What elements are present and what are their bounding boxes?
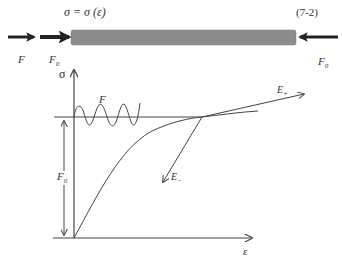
- oscillation-wave: [74, 103, 140, 126]
- stress-strain-curve: [74, 111, 258, 238]
- preload-label-f0: F0: [57, 171, 67, 185]
- constitutive-equation: σ = σ (ε): [64, 6, 106, 18]
- y-axis-label-sigma: σ: [59, 68, 65, 80]
- force-label-f0-right: F0: [318, 56, 328, 70]
- tangent-e-minus-arrow: [163, 117, 202, 182]
- tangent-label-e-minus: E−: [171, 172, 182, 185]
- rod-bar: [71, 30, 296, 45]
- equation-number: (7-2): [296, 7, 318, 18]
- force-label-f: F: [18, 54, 25, 65]
- tangent-label-e-plus: E+: [277, 85, 288, 98]
- oscillation-label-f: F: [99, 94, 106, 105]
- diagram-canvas: [0, 0, 342, 261]
- force-label-f0-left: F0: [49, 54, 59, 68]
- x-axis-label-epsilon: ε: [243, 246, 247, 257]
- tangent-e-plus-arrow: [202, 94, 304, 117]
